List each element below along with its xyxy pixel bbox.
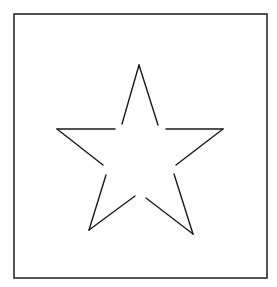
top-right-stroke <box>139 65 158 125</box>
square-frame <box>14 14 267 278</box>
bottom-left-inner-stroke <box>89 196 135 230</box>
bottom-right-upper-stroke <box>174 174 193 234</box>
star-outline-icon <box>57 65 223 234</box>
bottom-left-upper-stroke <box>89 175 106 230</box>
left-lower-stroke <box>57 129 103 165</box>
bottom-right-inner-stroke <box>146 198 193 234</box>
right-lower-stroke <box>176 129 223 165</box>
star-diagram <box>0 0 277 287</box>
top-left-stroke <box>122 65 139 124</box>
